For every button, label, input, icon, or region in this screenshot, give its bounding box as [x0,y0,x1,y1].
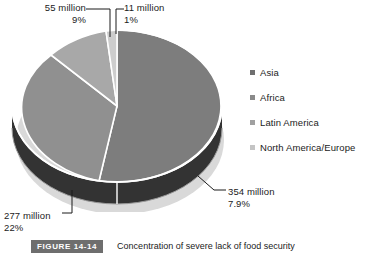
legend-swatch-icon [250,70,255,75]
callout-latin-america: 11 million 1% [124,2,194,25]
legend-swatch-icon [250,120,255,125]
chart-legend: Asia Africa Latin America North America/… [250,64,363,164]
figure-caption: FIGURE 14-14 Concentration of severe lac… [31,240,295,253]
callout-africa: 277 million 22% [4,210,78,233]
pie-chart [10,22,225,212]
legend-item-label: North America/Europe [260,142,355,153]
callout-north-america-europe: 55 million 9% [20,2,86,25]
legend-item-africa[interactable]: Africa [250,89,363,106]
callout-amount: 354 million [228,186,302,198]
legend-item-label: Africa [260,92,285,103]
figure-container: 55 million 9% 11 million 1% 277 million … [0,0,365,253]
legend-swatch-icon [250,145,255,150]
callout-percent: 1% [124,14,194,26]
callout-amount: 55 million [20,2,86,14]
legend-item-north-america-europe[interactable]: North America/Europe [250,139,363,156]
legend-item-latin-america[interactable]: Latin America [250,114,363,131]
pie-chart-svg [10,22,225,212]
figure-number-badge: FIGURE 14-14 [31,240,103,253]
legend-item-label: Latin America [260,117,319,128]
figure-caption-text: Concentration of severe lack of food sec… [117,240,295,251]
callout-percent: 9% [20,14,86,26]
legend-swatch-icon [250,95,255,100]
legend-item-label: Asia [260,67,279,78]
callout-asia: 354 million 7.9% [228,186,302,209]
callout-percent: 7.9% [228,198,302,210]
legend-item-asia[interactable]: Asia [250,64,363,81]
callout-amount: 277 million [4,210,78,222]
callout-percent: 22% [4,222,78,234]
callout-amount: 11 million [124,2,194,14]
